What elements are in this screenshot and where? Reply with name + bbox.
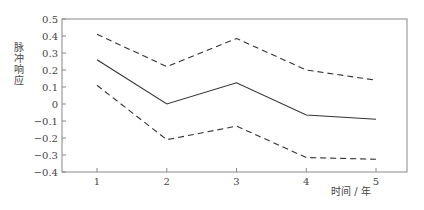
response-line	[97, 60, 376, 120]
y-tick-label: 0	[52, 99, 58, 110]
y-axis-label: 脉冲响应	[13, 41, 24, 86]
x-tick-label: 1	[94, 176, 100, 187]
y-tick-label: −0.3	[34, 150, 58, 161]
y-tick-label: −0.1	[34, 116, 58, 127]
x-axis-ticks: 12345	[94, 168, 379, 187]
confidence-bound-line	[97, 85, 376, 159]
y-tick-label: −0.2	[34, 133, 58, 144]
x-tick-label: 4	[303, 176, 309, 187]
y-tick-label: 0.1	[42, 82, 58, 93]
x-tick-label: 3	[233, 176, 239, 187]
y-tick-label: 0.5	[42, 14, 58, 25]
y-tick-label: 0.2	[42, 65, 58, 76]
x-tick-label: 2	[164, 176, 170, 187]
series-lines	[97, 34, 376, 159]
plot-frame	[62, 19, 407, 172]
confidence-bound-line	[97, 34, 376, 80]
y-tick-label: 0.3	[42, 48, 58, 59]
x-axis-label: 时间 / 年	[331, 185, 371, 197]
y-tick-label: −0.4	[34, 167, 58, 178]
y-tick-label: 0.4	[42, 31, 58, 42]
x-tick-label: 5	[373, 176, 379, 187]
impulse-response-chart: 0.50.40.30.20.10−0.1−0.2−0.3−0.4 12345 脉…	[0, 0, 424, 210]
y-axis-ticks: 0.50.40.30.20.10−0.1−0.2−0.3−0.4	[34, 14, 66, 178]
